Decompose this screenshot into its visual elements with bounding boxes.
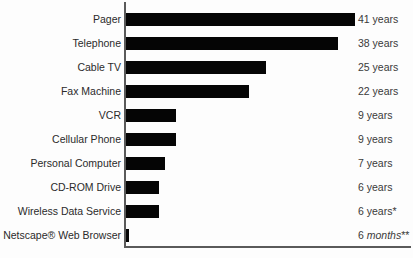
value-unit: years [364, 205, 393, 217]
category-label: Cellular Phone [52, 133, 121, 146]
value-unit: years [364, 109, 393, 121]
category-label: CD-ROM Drive [50, 181, 121, 194]
bar [126, 61, 266, 74]
value-label: 9 years [358, 109, 392, 122]
chart-row: Telephone38 years [0, 37, 413, 61]
chart-row: Netscape® Web Browser6 months** [0, 229, 413, 253]
chart-row: Fax Machine22 years [0, 85, 413, 109]
chart-row: Personal Computer7 years [0, 157, 413, 181]
value-unit: months [364, 229, 401, 241]
category-label: Cable TV [77, 61, 121, 74]
value-unit: years [364, 181, 393, 193]
value-label: 41 years [358, 13, 398, 26]
footnote-marker: * [392, 205, 396, 217]
value-unit: years [370, 61, 399, 73]
bar [126, 37, 338, 50]
value-label: 9 years [358, 133, 392, 146]
category-label: Netscape® Web Browser [3, 229, 121, 242]
value-unit: years [370, 37, 399, 49]
chart-row: Pager41 years [0, 13, 413, 37]
bar [126, 13, 355, 26]
footnote-marker: ** [401, 229, 409, 241]
bar [126, 229, 129, 242]
value-number: 25 [358, 61, 370, 73]
bar [126, 157, 165, 170]
bar [126, 181, 159, 194]
chart-row: CD-ROM Drive6 years [0, 181, 413, 205]
category-label: Wireless Data Service [18, 205, 121, 218]
value-unit: years [370, 85, 399, 97]
value-unit: years [364, 157, 393, 169]
value-label: 6 years [358, 181, 392, 194]
value-label: 6 months** [358, 229, 409, 242]
category-label: Telephone [73, 37, 121, 50]
chart-row: Cellular Phone9 years [0, 133, 413, 157]
value-unit: years [364, 133, 393, 145]
value-unit: years [370, 13, 399, 25]
value-number: 38 [358, 37, 370, 49]
chart-row: Wireless Data Service6 years* [0, 205, 413, 229]
category-label: VCR [99, 109, 121, 122]
bar [126, 133, 176, 146]
bar [126, 205, 159, 218]
value-number: 41 [358, 13, 370, 25]
value-label: 6 years* [358, 205, 397, 218]
category-label: Personal Computer [31, 157, 121, 170]
chart-row: Cable TV25 years [0, 61, 413, 85]
category-label: Fax Machine [61, 85, 121, 98]
chart-row: VCR9 years [0, 109, 413, 133]
bar [126, 109, 176, 122]
bar-chart: Pager41 yearsTelephone38 yearsCable TV25… [0, 0, 413, 258]
value-label: 7 years [358, 157, 392, 170]
value-label: 25 years [358, 61, 398, 74]
value-label: 38 years [358, 37, 398, 50]
bar [126, 85, 249, 98]
value-number: 22 [358, 85, 370, 97]
value-label: 22 years [358, 85, 398, 98]
category-label: Pager [93, 13, 121, 26]
